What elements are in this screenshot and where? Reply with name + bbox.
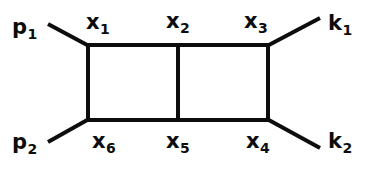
- leg-p1: [48, 24, 89, 46]
- leg-k1: [267, 18, 320, 46]
- feynman-diagram-figure: p1 p2 k1 k2 x1 x2 x3 x4 x5 x6: [0, 0, 368, 179]
- label-x2-base: x: [166, 9, 180, 33]
- label-p1: p1: [12, 17, 37, 38]
- label-x6-base: x: [92, 129, 106, 153]
- label-k2-sub: 2: [342, 140, 352, 156]
- label-x6-sub: 6: [106, 140, 116, 156]
- leg-p2: [48, 119, 89, 142]
- label-x2-sub: 2: [180, 20, 190, 36]
- label-x5-base: x: [166, 129, 180, 153]
- label-x6: x6: [92, 131, 115, 152]
- leg-k2: [267, 119, 320, 148]
- label-x3-base: x: [244, 9, 258, 33]
- label-k2-base: k: [328, 129, 342, 153]
- label-x1-sub: 1: [100, 21, 110, 37]
- label-x1-base: x: [86, 10, 100, 34]
- label-x1: x1: [86, 12, 109, 33]
- label-x2: x2: [166, 11, 189, 32]
- label-k1-base: k: [328, 11, 342, 35]
- label-x4-base: x: [246, 129, 260, 153]
- label-k1: k1: [328, 13, 352, 34]
- label-p1-sub: 1: [28, 26, 38, 42]
- label-x3: x3: [244, 11, 267, 32]
- label-x4: x4: [246, 131, 269, 152]
- label-x3-sub: 3: [258, 20, 268, 36]
- label-x5-sub: 5: [180, 140, 190, 156]
- label-p2-base: p: [12, 130, 27, 154]
- label-p2-sub: 2: [28, 141, 38, 157]
- label-x5: x5: [166, 131, 189, 152]
- label-k1-sub: 1: [342, 22, 352, 38]
- label-k2: k2: [328, 131, 352, 152]
- label-x4-sub: 4: [260, 140, 270, 156]
- label-p2: p2: [12, 132, 37, 153]
- label-p1-base: p: [12, 15, 27, 39]
